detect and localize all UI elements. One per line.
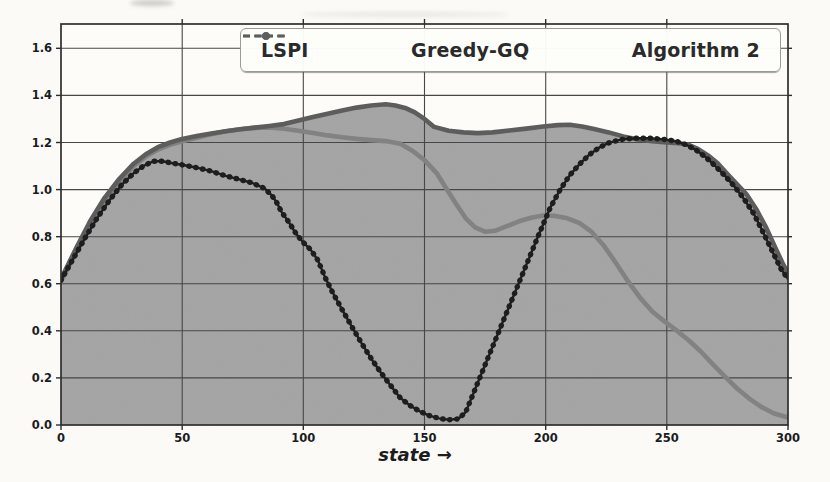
y-tick-labels: 0.00.20.40.60.81.01.21.41.6	[32, 41, 52, 432]
legend-label: Greedy-GQ	[411, 39, 529, 61]
svg-text:200: 200	[534, 431, 558, 445]
legend-label: Algorithm 2	[632, 39, 760, 61]
svg-text:0.0: 0.0	[32, 418, 52, 432]
svg-text:0.2: 0.2	[32, 371, 52, 385]
x-tick-labels: 050100150200250300	[57, 431, 800, 445]
legend-item-algorithm-2: Algorithm 2	[632, 39, 760, 61]
svg-text:50: 50	[174, 431, 190, 445]
legend-item-greedy-gq: Greedy-GQ	[411, 39, 529, 61]
svg-text:0: 0	[57, 431, 65, 445]
x-axis-label: state →	[0, 444, 830, 465]
svg-text:1.4: 1.4	[32, 88, 52, 102]
svg-text:300: 300	[776, 431, 800, 445]
svg-text:0.8: 0.8	[32, 230, 52, 244]
svg-text:1.0: 1.0	[32, 183, 52, 197]
svg-text:150: 150	[412, 431, 436, 445]
scanned-figure: 0501001502002503000.00.20.40.60.81.01.21…	[0, 0, 830, 482]
svg-text:100: 100	[291, 431, 315, 445]
legend-marker-algorithm-2-icon	[241, 29, 291, 43]
svg-text:1.6: 1.6	[32, 41, 52, 55]
svg-text:1.2: 1.2	[32, 136, 52, 150]
svg-text:250: 250	[655, 431, 679, 445]
svg-text:0.6: 0.6	[32, 277, 52, 291]
svg-text:0.4: 0.4	[32, 324, 52, 338]
legend: LSPIGreedy-GQAlgorithm 2	[240, 28, 781, 72]
chart-canvas: 0501001502002503000.00.20.40.60.81.01.21…	[0, 0, 830, 482]
